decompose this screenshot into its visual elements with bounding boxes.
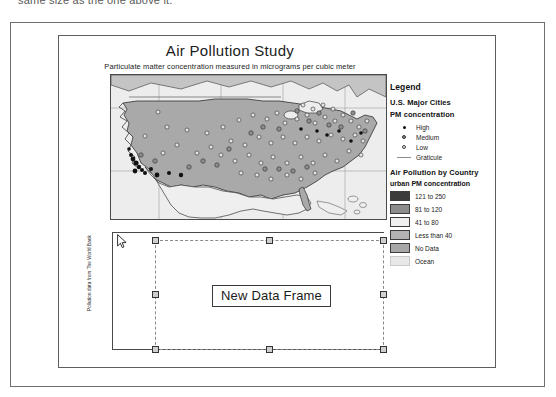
graticule-line-icon <box>396 157 412 158</box>
arrow-cursor <box>117 234 128 249</box>
high-dot-icon <box>396 126 412 129</box>
legend-swatch-label: 41 to 80 <box>415 219 439 226</box>
legend-swatch-label: 121 to 250 <box>415 193 446 200</box>
data-source-credit: Pollution data from The World Bank <box>87 227 97 319</box>
resize-handle-bottom-center[interactable] <box>266 346 273 353</box>
resize-handle-top-center[interactable] <box>266 237 273 244</box>
resize-handle-bottom-left[interactable] <box>152 346 159 353</box>
map-title[interactable]: Air Pollution Study <box>70 42 390 59</box>
legend-swatch-label: Ocean <box>415 258 434 265</box>
legend-point-label: Medium <box>416 134 439 141</box>
swatch-121-250 <box>390 191 410 201</box>
resize-handle-middle-right[interactable] <box>380 291 387 298</box>
legend-swatch-row: 41 to 80 <box>390 216 494 228</box>
legend-swatch-row: 121 to 250 <box>390 190 494 202</box>
legend-country-subheading: urban PM concentration <box>390 180 494 187</box>
swatch-no-data <box>390 243 410 253</box>
legend-point-row-graticule: Graticule <box>396 152 494 162</box>
legend-point-label: Low <box>416 144 428 151</box>
legend-point-row-high: High <box>396 122 494 132</box>
legend-swatch-row: Ocean <box>390 255 494 267</box>
legend-point-label: High <box>416 124 429 131</box>
legend-point-label: Graticule <box>416 154 442 161</box>
legend-swatch-row: No Data <box>390 242 494 254</box>
map-graphic-svg <box>111 75 386 219</box>
map-legend[interactable]: Legend U.S. Major Cities PM concentratio… <box>390 82 494 268</box>
resize-handle-bottom-right[interactable] <box>380 346 387 353</box>
swatch-81-120 <box>390 204 410 214</box>
legend-cities-heading: U.S. Major Cities <box>390 98 494 107</box>
legend-country-heading: Air Pollution by Country <box>390 168 494 177</box>
resize-handle-top-right[interactable] <box>380 237 387 244</box>
new-data-frame-label[interactable]: New Data Frame <box>212 285 331 307</box>
legend-swatch-label: No Data <box>415 245 439 252</box>
document-instruction-text: same size as the one above it. <box>18 0 173 5</box>
medium-dot-icon <box>396 135 412 139</box>
legend-swatch-label: 81 to 120 <box>415 206 442 213</box>
resize-handle-top-left[interactable] <box>152 237 159 244</box>
legend-point-row-low: Low <box>396 142 494 152</box>
legend-swatch-row: Less than 40 <box>390 229 494 241</box>
low-dot-icon <box>396 145 412 150</box>
swatch-41-80 <box>390 217 410 227</box>
map-subtitle[interactable]: Particulate matter concentration measure… <box>60 62 400 71</box>
legend-heading: Legend <box>390 82 494 92</box>
legend-point-row-medium: Medium <box>396 132 494 142</box>
legend-swatch-row: 81 to 120 <box>390 203 494 215</box>
swatch-less-than-40 <box>390 230 410 240</box>
map-data-frame[interactable] <box>110 74 387 220</box>
legend-swatch-label: Less than 40 <box>415 232 452 239</box>
swatch-ocean <box>390 256 410 266</box>
legend-pm-heading: PM concentration <box>390 110 494 119</box>
resize-handle-middle-left[interactable] <box>152 291 159 298</box>
